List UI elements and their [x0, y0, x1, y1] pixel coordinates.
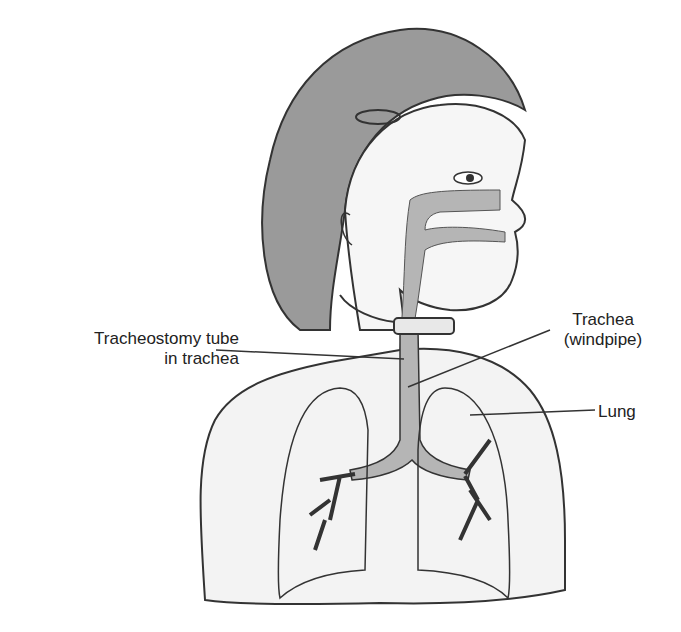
label-line: (windpipe): [543, 330, 663, 350]
label-trachea: Trachea (windpipe): [543, 310, 663, 350]
tracheostomy-tube: [394, 318, 454, 334]
label-line: in trachea: [0, 349, 239, 369]
label-line: Trachea: [543, 310, 663, 330]
label-tracheostomy-tube: Tracheostomy tube in trachea: [0, 329, 239, 369]
label-lung: Lung: [598, 402, 636, 422]
label-line: Tracheostomy tube: [0, 329, 239, 349]
